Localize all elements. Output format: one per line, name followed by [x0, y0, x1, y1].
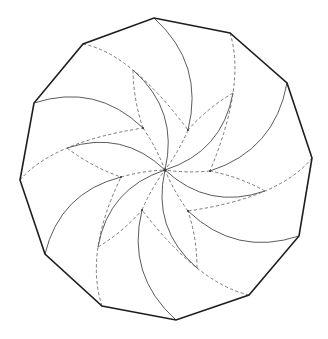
inner-junction-1 [142, 127, 144, 129]
crease-pattern-diagram [0, 0, 328, 339]
inner-junction-4 [187, 210, 189, 212]
inner-junction-2 [187, 129, 189, 131]
inner-junction-3 [209, 170, 211, 172]
inner-junction-5 [141, 209, 143, 211]
center-point [163, 168, 166, 171]
inner-junction-6 [120, 176, 122, 178]
